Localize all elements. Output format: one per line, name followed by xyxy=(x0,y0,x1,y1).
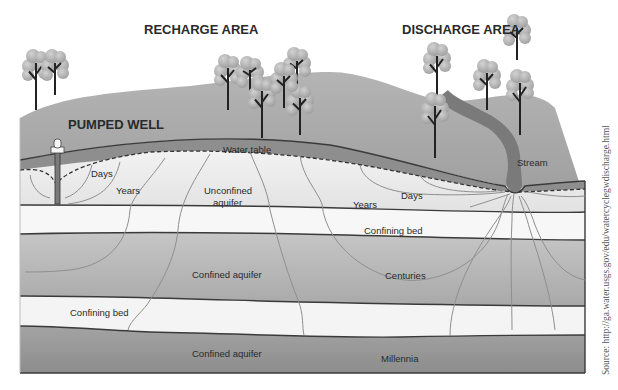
pumped-well-heading: PUMPED WELL xyxy=(68,117,164,132)
groundwater-flow-diagram: RECHARGE AREA DISCHARGE AREA PUMPED WELL… xyxy=(0,0,618,390)
tree-icon xyxy=(503,14,531,60)
years-label-right: Years xyxy=(353,199,377,210)
unconfined-aquifer-label-1: Unconfined xyxy=(204,185,252,196)
unconfined-aquifer-label-2: aquifer xyxy=(213,197,242,208)
millennia-label: Millennia xyxy=(381,353,419,364)
confined-aquifer-upper xyxy=(20,233,585,307)
days-label-right: Days xyxy=(401,190,423,201)
water-table-label: Water table xyxy=(223,144,271,155)
confining-bed-upper-label: Confining bed xyxy=(364,225,423,236)
source-credit: Source: http://ga.water.usgs.gov/edu/wat… xyxy=(601,125,611,375)
discharge-area-heading: DISCHARGE AREA xyxy=(402,22,521,37)
confined-aquifer-lower-label: Confined aquifer xyxy=(192,348,262,359)
tree-icon xyxy=(41,49,69,95)
confined-aquifer-upper-label: Confined aquifer xyxy=(192,269,262,280)
days-label-left: Days xyxy=(91,168,113,179)
stream-label: Stream xyxy=(517,157,548,168)
years-label-left: Years xyxy=(116,185,140,196)
recharge-area-heading: RECHARGE AREA xyxy=(144,22,259,37)
confining-bed-lower-label: Confining bed xyxy=(70,307,129,318)
centuries-label: Centuries xyxy=(385,270,426,281)
